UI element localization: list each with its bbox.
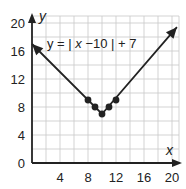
x-axis-arrow-icon xyxy=(172,159,182,167)
x-tick-labels: 48121620 xyxy=(56,170,179,185)
y-axis-arrow-icon xyxy=(28,13,36,23)
y-tick-label: 4 xyxy=(18,128,25,143)
data-point xyxy=(92,104,99,111)
data-point xyxy=(99,111,106,118)
y-tick-label: 12 xyxy=(11,72,25,87)
x-tick-label: 8 xyxy=(84,170,91,185)
y-tick-label: 8 xyxy=(18,100,25,115)
x-tick-label: 16 xyxy=(137,170,151,185)
equation-label: y = | x −10 | + 7 xyxy=(47,36,137,51)
y-tick-label: 16 xyxy=(11,44,25,59)
y-tick-labels: 048121620 xyxy=(11,16,25,171)
y-tick-label: 20 xyxy=(11,16,25,31)
x-tick-label: 12 xyxy=(109,170,123,185)
y-tick-label: 0 xyxy=(18,156,25,171)
x-tick-label: 4 xyxy=(56,170,63,185)
data-point xyxy=(106,104,113,111)
x-tick-label: 20 xyxy=(165,170,179,185)
x-axis-label: x xyxy=(165,142,174,158)
y-axis-label: y xyxy=(38,8,47,24)
data-point xyxy=(85,97,92,104)
data-point xyxy=(113,97,120,104)
graph: 48121620 048121620 x y y = | x −10 | + 7 xyxy=(0,0,186,189)
